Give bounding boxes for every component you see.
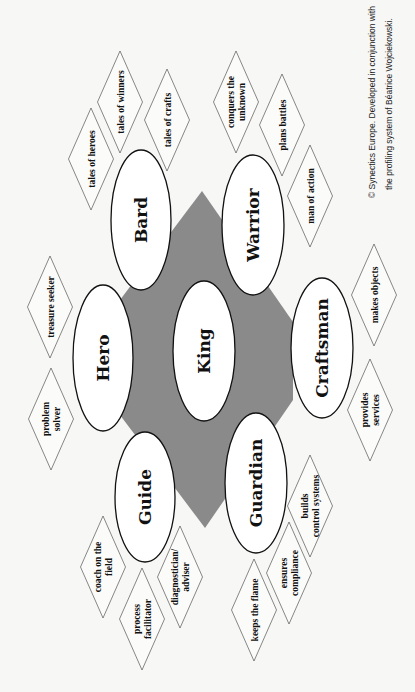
trait-label: treasure seeker <box>46 275 56 337</box>
role-label: Warrior <box>243 187 263 262</box>
trait-label: makes objects <box>370 266 380 323</box>
role-king: King <box>173 281 235 421</box>
trait-label: problemsolver <box>41 402 62 436</box>
trait-craftsman: providesservices <box>348 359 393 461</box>
role-warrior: Warrior <box>222 155 284 295</box>
trait-diamond <box>120 568 165 670</box>
role-label: Bard <box>131 197 151 243</box>
trait-diamond <box>81 516 126 618</box>
trait-label: conquers theunknown <box>226 76 247 128</box>
trait-label: processfacilitator <box>132 598 153 639</box>
role-label: Hero <box>93 334 113 381</box>
role-label: Guide <box>135 469 155 525</box>
trait-label: tales of winners <box>116 70 126 134</box>
trait-label: keeps the flame <box>250 579 260 642</box>
role-label: King <box>194 328 214 374</box>
trait-hero: treasure seeker <box>28 256 73 358</box>
trait-diamond <box>29 368 74 470</box>
copyright-line-2: the profiling system of Béatrice Wojciek… <box>384 18 394 190</box>
role-hero: Hero <box>73 285 133 431</box>
role-diagram: tales of heroestales of winnerstales of … <box>0 0 415 692</box>
trait-diamond <box>214 51 259 153</box>
trait-label: providesservices <box>360 392 381 427</box>
role-bard: Bard <box>111 150 171 290</box>
trait-label: plans battles <box>278 99 288 150</box>
trait-warrior: conquers theunknown <box>214 51 259 153</box>
trait-label: tales of crafts <box>163 93 173 148</box>
trait-hero: problemsolver <box>29 368 74 470</box>
copyright-line-1: © Synectics Europe. Developed in conjunc… <box>367 6 377 198</box>
role-guide: Guide <box>115 432 175 562</box>
trait-guide: coach on thefield <box>81 516 126 618</box>
trait-craftsman: makes objects <box>352 244 397 346</box>
trait-label: tales of heroes <box>87 130 97 188</box>
role-label: Craftsman <box>312 298 332 398</box>
copyright: © Synectics Europe. Developed in conjunc… <box>367 6 394 198</box>
role-label: Guardian <box>246 439 266 528</box>
trait-label: man of action <box>306 168 316 224</box>
trait-guide: processfacilitator <box>120 568 165 670</box>
role-guardian: Guardian <box>225 413 287 553</box>
role-craftsman: Craftsman <box>291 278 353 418</box>
trait-diamond <box>348 359 393 461</box>
trait-warrior: man of action <box>288 145 333 247</box>
